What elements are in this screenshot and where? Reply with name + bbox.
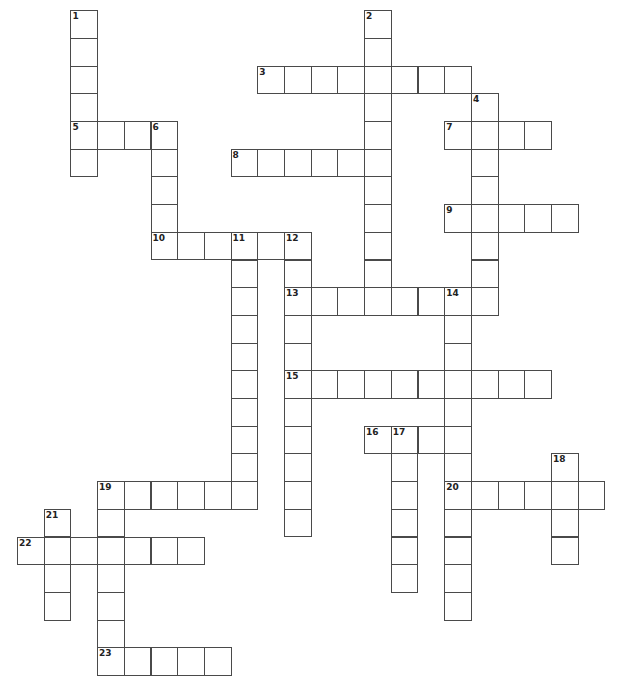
- crossword-cell[interactable]: [471, 121, 499, 150]
- crossword-cell[interactable]: [364, 38, 392, 67]
- crossword-cell[interactable]: [44, 592, 72, 621]
- crossword-cell[interactable]: [418, 66, 446, 95]
- crossword-cell[interactable]: 7: [444, 121, 472, 150]
- crossword-cell[interactable]: [364, 370, 392, 399]
- crossword-cell[interactable]: [204, 232, 232, 261]
- crossword-cell[interactable]: 8: [231, 149, 259, 178]
- crossword-cell[interactable]: [97, 121, 125, 150]
- crossword-cell[interactable]: [257, 232, 285, 261]
- crossword-cell[interactable]: [124, 647, 152, 676]
- crossword-cell[interactable]: [444, 398, 472, 427]
- crossword-cell[interactable]: [284, 315, 312, 344]
- crossword-cell[interactable]: [177, 232, 205, 261]
- crossword-cell[interactable]: [151, 647, 179, 676]
- crossword-cell[interactable]: 5: [70, 121, 98, 150]
- crossword-cell[interactable]: [471, 232, 499, 261]
- crossword-cell[interactable]: [284, 343, 312, 372]
- crossword-cell[interactable]: [257, 149, 285, 178]
- crossword-cell[interactable]: [151, 537, 179, 566]
- crossword-cell[interactable]: [151, 149, 179, 178]
- crossword-cell[interactable]: [70, 149, 98, 178]
- crossword-cell[interactable]: 16: [364, 426, 392, 455]
- crossword-cell[interactable]: [284, 481, 312, 510]
- crossword-cell[interactable]: [97, 592, 125, 621]
- crossword-cell[interactable]: 18: [551, 453, 579, 482]
- crossword-cell[interactable]: [231, 287, 259, 316]
- crossword-cell[interactable]: [97, 620, 125, 649]
- crossword-cell[interactable]: [284, 149, 312, 178]
- crossword-cell[interactable]: [70, 93, 98, 122]
- crossword-cell[interactable]: 11: [231, 232, 259, 261]
- crossword-cell[interactable]: [231, 260, 259, 289]
- crossword-cell[interactable]: 1: [70, 10, 98, 39]
- crossword-cell[interactable]: [231, 426, 259, 455]
- crossword-cell[interactable]: [364, 121, 392, 150]
- crossword-cell[interactable]: [524, 204, 552, 233]
- crossword-cell[interactable]: 6: [151, 121, 179, 150]
- crossword-cell[interactable]: 9: [444, 204, 472, 233]
- crossword-cell[interactable]: [391, 287, 419, 316]
- crossword-cell[interactable]: [471, 287, 499, 316]
- crossword-cell[interactable]: 17: [391, 426, 419, 455]
- crossword-cell[interactable]: [70, 537, 98, 566]
- crossword-cell[interactable]: [471, 260, 499, 289]
- crossword-cell[interactable]: 10: [151, 232, 179, 261]
- crossword-cell[interactable]: [498, 370, 526, 399]
- crossword-cell[interactable]: [284, 260, 312, 289]
- crossword-cell[interactable]: [578, 481, 606, 510]
- crossword-cell[interactable]: [364, 149, 392, 178]
- crossword-cell[interactable]: [284, 426, 312, 455]
- crossword-cell[interactable]: [97, 537, 125, 566]
- crossword-cell[interactable]: [231, 398, 259, 427]
- crossword-cell[interactable]: [391, 370, 419, 399]
- crossword-cell[interactable]: [551, 509, 579, 538]
- crossword-cell[interactable]: [391, 453, 419, 482]
- crossword-cell[interactable]: [551, 204, 579, 233]
- crossword-cell[interactable]: [391, 481, 419, 510]
- crossword-cell[interactable]: [70, 38, 98, 67]
- crossword-cell[interactable]: [151, 204, 179, 233]
- crossword-cell[interactable]: [364, 204, 392, 233]
- crossword-cell[interactable]: [364, 260, 392, 289]
- crossword-cell[interactable]: [124, 481, 152, 510]
- crossword-cell[interactable]: [364, 232, 392, 261]
- crossword-cell[interactable]: [418, 370, 446, 399]
- crossword-cell[interactable]: [498, 204, 526, 233]
- crossword-cell[interactable]: 22: [17, 537, 45, 566]
- crossword-cell[interactable]: [231, 453, 259, 482]
- crossword-cell[interactable]: [97, 509, 125, 538]
- crossword-cell[interactable]: [391, 509, 419, 538]
- crossword-cell[interactable]: 15: [284, 370, 312, 399]
- crossword-cell[interactable]: [151, 481, 179, 510]
- crossword-cell[interactable]: 23: [97, 647, 125, 676]
- crossword-cell[interactable]: [391, 537, 419, 566]
- crossword-cell[interactable]: [284, 66, 312, 95]
- crossword-cell[interactable]: [44, 564, 72, 593]
- crossword-cell[interactable]: [524, 481, 552, 510]
- crossword-cell[interactable]: [337, 287, 365, 316]
- crossword-cell[interactable]: [364, 93, 392, 122]
- crossword-cell[interactable]: 3: [257, 66, 285, 95]
- crossword-cell[interactable]: [471, 481, 499, 510]
- crossword-cell[interactable]: [444, 315, 472, 344]
- crossword-cell[interactable]: [177, 481, 205, 510]
- crossword-cell[interactable]: [471, 204, 499, 233]
- crossword-cell[interactable]: [498, 121, 526, 150]
- crossword-cell[interactable]: [551, 481, 579, 510]
- crossword-cell[interactable]: [311, 287, 339, 316]
- crossword-cell[interactable]: [471, 149, 499, 178]
- crossword-cell[interactable]: [524, 370, 552, 399]
- crossword-cell[interactable]: [391, 564, 419, 593]
- crossword-cell[interactable]: [524, 121, 552, 150]
- crossword-cell[interactable]: [284, 398, 312, 427]
- crossword-cell[interactable]: [124, 121, 152, 150]
- crossword-cell[interactable]: [418, 287, 446, 316]
- crossword-cell[interactable]: 20: [444, 481, 472, 510]
- crossword-cell[interactable]: [471, 176, 499, 205]
- crossword-cell[interactable]: [231, 481, 259, 510]
- crossword-cell[interactable]: [337, 370, 365, 399]
- crossword-cell[interactable]: 19: [97, 481, 125, 510]
- crossword-cell[interactable]: [418, 426, 446, 455]
- crossword-cell[interactable]: [311, 66, 339, 95]
- crossword-cell[interactable]: [311, 370, 339, 399]
